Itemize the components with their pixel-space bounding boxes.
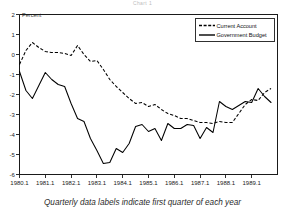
x-tick-label: 1982.1 (62, 180, 81, 186)
data-series-group (20, 43, 272, 164)
x-tick-label: 1980.1 (10, 180, 29, 186)
y-tick-label: -6 (10, 172, 16, 178)
chart-figure: Chart 1 Percent 210-1-2-3-4-5-6 1980.119… (0, 0, 285, 214)
chart-plot-area: Percent 210-1-2-3-4-5-6 1980.11981.11982… (0, 0, 285, 196)
legend-label: Current Account (217, 23, 258, 29)
legend-label: Government Budget (217, 32, 268, 38)
x-tick-label: 1989.1 (243, 180, 262, 186)
y-tick-label: -5 (10, 152, 16, 158)
y-tick-group: 210-1-2-3-4-5-6 (10, 12, 20, 178)
x-tick-label: 1987.1 (191, 180, 210, 186)
x-tick-label: 1983.1 (88, 180, 107, 186)
y-tick-label: 2 (12, 12, 16, 18)
y-tick-label: -3 (10, 112, 16, 118)
y-tick-label: -4 (10, 132, 16, 138)
x-tick-group: 1980.11981.11982.11983.11984.11985.11986… (10, 175, 261, 187)
x-tick-label: 1981.1 (36, 180, 55, 186)
x-tick-label: 1986.1 (165, 180, 184, 186)
y-tick-label: 1 (12, 32, 16, 38)
y-tick-label: -1 (10, 72, 16, 78)
x-tick-label: 1984.1 (114, 180, 133, 186)
series-government-budget (20, 72, 272, 164)
x-tick-label: 1988.1 (217, 180, 236, 186)
series-current-account (20, 43, 272, 124)
x-tick-label: 1985.1 (139, 180, 158, 186)
chart-legend: Current AccountGovernment Budget (195, 19, 274, 42)
y-tick-label: -2 (10, 92, 16, 98)
y-tick-label: 0 (12, 52, 16, 58)
chart-caption: Quarterly data labels indicate first qua… (0, 196, 285, 210)
